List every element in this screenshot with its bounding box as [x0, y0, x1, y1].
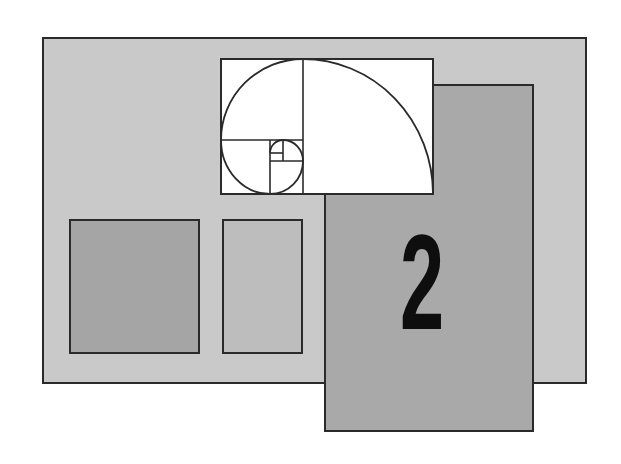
- golden-rectangle: [221, 59, 433, 194]
- golden-spiral-figure: [0, 0, 621, 464]
